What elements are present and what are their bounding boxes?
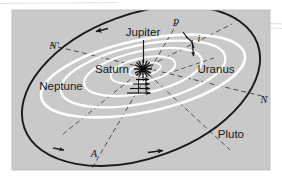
label-saturn: Saturn bbox=[95, 63, 129, 75]
label-uranus: Uranus bbox=[197, 63, 234, 75]
label-node-descending: N' bbox=[48, 40, 59, 51]
label-neptune: Neptune bbox=[39, 80, 82, 92]
label-inclination: i bbox=[198, 33, 201, 44]
label-pluto: Pluto bbox=[218, 128, 244, 140]
label-jupiter: Jupiter bbox=[126, 26, 161, 38]
orbital-diagram-figure: Jupiter Saturn Uranus Neptune Pluto N' N… bbox=[0, 0, 282, 180]
diagram-canvas: Jupiter Saturn Uranus Neptune Pluto N' N… bbox=[0, 0, 282, 180]
label-node-ascending: N bbox=[259, 94, 268, 105]
sun-starburst bbox=[135, 61, 152, 79]
label-perihelion: P bbox=[172, 17, 180, 28]
label-aphelion: A bbox=[90, 148, 98, 159]
